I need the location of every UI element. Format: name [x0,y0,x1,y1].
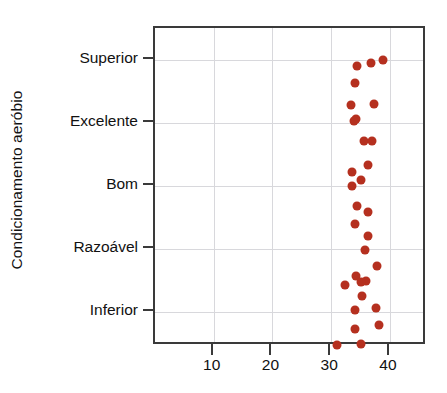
y-axis-tick-mark [143,309,153,311]
data-point [350,306,359,315]
y-axis-title-container: Condicionamento aeróbio [0,0,34,360]
gridline-vertical [331,28,332,342]
y-axis-tick-mark [143,120,153,122]
y-axis-tick-mark [143,183,153,185]
x-axis-tick-label: 40 [379,356,396,374]
y-axis-tick-mark [143,246,153,248]
gridline-vertical [390,28,391,342]
x-axis-tick-mark [328,344,330,355]
data-point [347,182,356,191]
data-point [356,278,365,287]
data-point [370,99,379,108]
y-axis-tick-label: Inferior [90,301,138,319]
data-point [356,176,365,185]
x-axis-tick-mark [269,344,271,355]
data-point [359,137,368,146]
data-point [363,207,372,216]
data-point [375,321,384,330]
data-point [378,56,387,65]
x-axis: 10203040 [153,344,425,384]
y-axis-tick-labels: InferiorRazoávelBomExcelenteSuperior [40,26,138,344]
y-axis-tick-label: Superior [79,49,138,67]
gridline-horizontal [155,123,423,124]
data-point [368,136,377,145]
data-point [357,292,366,301]
x-axis-tick-label: 20 [262,356,279,374]
y-axis-tick-label: Bom [106,175,138,193]
gridline-horizontal [155,249,423,250]
y-axis-tick-mark [143,57,153,59]
data-point [373,262,382,271]
x-axis-tick-label: 10 [203,356,220,374]
data-point [351,324,360,333]
gridline-vertical [272,28,273,342]
data-point [363,231,372,240]
data-point [350,117,359,126]
data-point [348,167,357,176]
x-axis-tick-mark [211,344,213,355]
scatter-chart-figure: Condicionamento aeróbio InferiorRazoável… [0,0,447,393]
data-point [360,245,369,254]
data-point [350,219,359,228]
gridline-horizontal [155,312,423,313]
data-point [372,304,381,313]
data-point [352,62,361,71]
data-point [351,78,360,87]
plot-area [153,26,425,344]
y-axis-tick-label: Excelente [70,112,138,130]
data-point [367,59,376,68]
gridline-horizontal [155,186,423,187]
data-point [364,160,373,169]
data-point [340,280,349,289]
y-axis-title: Condicionamento aeróbio [8,91,26,270]
y-axis-tick-label: Razoável [73,238,138,256]
data-point [352,201,361,210]
data-point [346,101,355,110]
x-axis-tick-label: 30 [321,356,338,374]
x-axis-tick-mark [387,344,389,355]
gridline-vertical [214,28,215,342]
